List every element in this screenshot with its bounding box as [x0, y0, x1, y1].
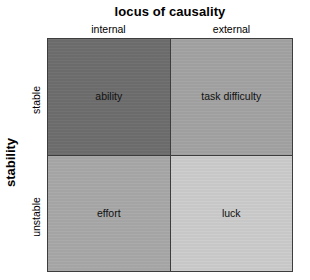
matrix-cell-task-difficulty: task difficulty	[171, 39, 293, 155]
row-label-stable: stable	[30, 44, 42, 156]
matrix-cell-label: effort	[93, 207, 125, 220]
matrix-cell-ability: ability	[48, 39, 170, 155]
column-axis-title: locus of causality	[47, 4, 293, 19]
matrix-cell-label: task difficulty	[197, 90, 265, 103]
row-axis-title: stability	[3, 103, 18, 223]
row-label-unstable: unstable	[30, 161, 42, 273]
column-label-external: external	[170, 23, 293, 36]
matrix-cell-effort: effort	[48, 156, 170, 272]
matrix-cell-label: ability	[91, 90, 126, 103]
matrix-cell-luck: luck	[171, 156, 293, 272]
column-label-internal: internal	[47, 23, 170, 36]
matrix-cell-label: luck	[218, 207, 245, 220]
attribution-matrix: ability task difficulty effort luck	[47, 38, 293, 272]
